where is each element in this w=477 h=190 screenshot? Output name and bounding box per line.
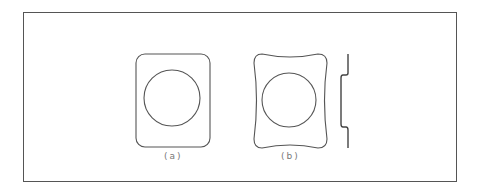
panel-a-label: (a) xyxy=(164,151,183,161)
side-profile-line xyxy=(341,54,348,148)
diagram-canvas xyxy=(0,0,477,190)
circle-hole xyxy=(262,73,316,127)
panel-b-label: (b) xyxy=(281,151,300,161)
panel-b xyxy=(254,54,327,148)
panel-a xyxy=(136,54,210,147)
circle-hole xyxy=(144,70,200,126)
rounded-rectangle-outline xyxy=(136,54,210,147)
